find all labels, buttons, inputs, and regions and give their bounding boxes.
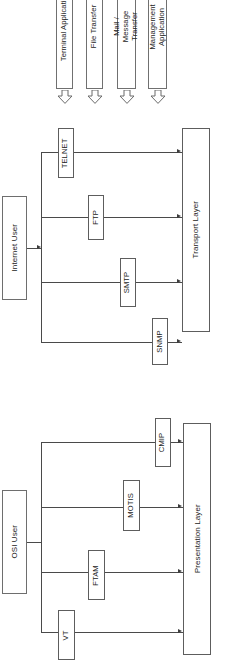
transport-layer-box: Transport Layer	[182, 128, 210, 332]
block-arrow-icon	[87, 90, 103, 104]
osi-branch-ftam	[41, 572, 88, 573]
osi-link-motis-presentation	[140, 507, 183, 508]
internet-branch-snmp	[41, 342, 152, 343]
protocol-box-cmip: CMIP	[155, 418, 171, 467]
protocol-box-ftp: FTP	[88, 195, 104, 240]
application-box-file-transfer: File Transfer	[86, 0, 103, 89]
application-label: Mail / Message Transfer	[113, 11, 140, 43]
internet-trunk	[41, 152, 42, 342]
application-label: File Transfer	[90, 5, 99, 49]
arrowhead-cmip-presentation	[178, 439, 182, 443]
arrowhead-vt-presentation	[178, 629, 182, 633]
block-arrow-icon	[57, 90, 73, 104]
arrowhead-smtp-transport	[177, 279, 181, 283]
protocol-box-ftam: FTAM	[88, 550, 105, 600]
internet-branch-telnet	[41, 152, 58, 153]
presentation-layer-label: Presentation Layer	[192, 505, 201, 574]
arrowhead-snmp-transport	[177, 339, 181, 343]
osi-user-label: OSI User	[10, 525, 19, 559]
protocol-label: SNMP	[156, 330, 165, 352]
protocol-box-motis: MOTIS	[123, 480, 140, 531]
application-label: Management Application	[149, 4, 167, 49]
osi-trunk	[41, 442, 42, 632]
application-box-terminal-application: Terminal Application	[56, 0, 73, 89]
protocol-label: SMTP	[124, 272, 133, 294]
arrowhead-ftam-presentation	[178, 569, 182, 573]
protocol-box-telnet: TELNET	[58, 128, 74, 178]
block-arrow-icon	[119, 90, 135, 104]
internet-link-ftp-transport	[104, 217, 182, 218]
presentation-layer-box: Presentation Layer	[183, 423, 211, 655]
application-label: Terminal Application	[60, 0, 69, 61]
arrowhead-ftp-transport	[177, 214, 181, 218]
osi-branch-cmip	[41, 442, 155, 443]
arrowhead-telnet-transport	[177, 149, 181, 153]
protocol-box-snmp: SNMP	[152, 318, 168, 365]
osi-branch-vt	[41, 632, 58, 633]
osi-user-stub	[27, 542, 41, 543]
application-box-management-application: Management Application	[148, 0, 167, 89]
protocol-box-vt: VT	[58, 610, 75, 660]
osi-link-ftam-presentation	[105, 572, 183, 573]
internet-branch-ftp	[41, 217, 88, 218]
internet-link-smtp-transport	[136, 282, 182, 283]
internet-link-telnet-transport	[74, 152, 182, 153]
diagram-canvas: Terminal Application File Transfer Mail …	[0, 0, 233, 667]
block-arrow-icon	[150, 90, 166, 104]
protocol-label: FTAM	[92, 565, 101, 586]
transport-layer-label: Transport Layer	[191, 201, 200, 259]
osi-link-vt-presentation	[75, 632, 183, 633]
protocol-label: MOTIS	[127, 493, 136, 518]
internet-branch-smtp	[41, 282, 120, 283]
osi-user-box: OSI User	[2, 490, 27, 594]
application-box-mail-message-transfer: Mail / Message Transfer	[117, 0, 136, 89]
protocol-label: CMIP	[159, 433, 168, 452]
protocol-label: FTP	[92, 210, 101, 225]
protocol-label: VT	[62, 630, 71, 640]
arrowhead-motis-presentation	[178, 504, 182, 508]
protocol-box-smtp: SMTP	[120, 258, 136, 307]
internet-user-box: Internet User	[2, 196, 27, 300]
osi-branch-motis	[41, 507, 123, 508]
internet-user-label: Internet User	[10, 224, 19, 272]
protocol-label: TELNET	[62, 138, 71, 168]
